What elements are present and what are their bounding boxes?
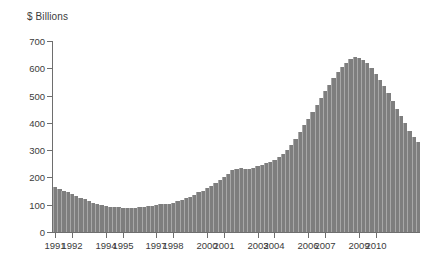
- x-axis-tick: [376, 233, 377, 238]
- x-axis-tick-label: 2007: [314, 240, 335, 251]
- bar: [416, 142, 420, 232]
- y-axis-tick-label: 100: [0, 199, 45, 210]
- x-axis-tick-label: 1998: [162, 240, 183, 251]
- x-axis-tick: [55, 233, 56, 238]
- x-axis-tick: [72, 233, 73, 238]
- y-axis-tick-label: 500: [0, 90, 45, 101]
- y-axis-tick-label: 700: [0, 36, 45, 47]
- x-axis-tick-label: 2004: [263, 240, 284, 251]
- bar-chart: $ Billions 0100200300400500600700 199119…: [0, 0, 444, 260]
- y-axis-unit-label: $ Billions: [27, 11, 68, 22]
- y-axis-tick-label: 400: [0, 117, 45, 128]
- x-axis-tick-label: 1992: [61, 240, 82, 251]
- plot-area: [53, 41, 420, 232]
- y-axis-tick: [47, 123, 52, 124]
- x-axis-line: [52, 232, 420, 233]
- x-axis-tick-label: 2001: [213, 240, 234, 251]
- x-axis-tick: [173, 233, 174, 238]
- y-axis-tick: [47, 41, 52, 42]
- x-axis-tick: [123, 233, 124, 238]
- y-axis-tick: [47, 177, 52, 178]
- y-axis-tick: [47, 232, 52, 233]
- x-axis-tick: [224, 233, 225, 238]
- y-axis-tick-label: 600: [0, 63, 45, 74]
- x-axis-tick: [207, 233, 208, 238]
- x-axis-tick: [308, 233, 309, 238]
- x-axis-tick-label: 1995: [112, 240, 133, 251]
- x-axis-tick: [258, 233, 259, 238]
- y-axis-tick-label: 300: [0, 145, 45, 156]
- x-axis-tick: [274, 233, 275, 238]
- y-axis-tick: [47, 96, 52, 97]
- x-axis-tick: [156, 233, 157, 238]
- x-axis-tick-label: 2010: [365, 240, 386, 251]
- x-axis-tick: [106, 233, 107, 238]
- y-axis-tick-label: 200: [0, 172, 45, 183]
- x-axis-tick: [325, 233, 326, 238]
- y-axis-tick-label: 0: [0, 227, 45, 238]
- y-axis-tick: [47, 68, 52, 69]
- y-axis-tick: [47, 205, 52, 206]
- y-axis-tick: [47, 150, 52, 151]
- x-axis-tick: [359, 233, 360, 238]
